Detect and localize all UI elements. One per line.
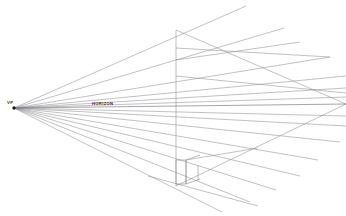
horizon-label: HORIZON: [92, 101, 113, 106]
perspective-box: [176, 155, 200, 184]
perspective-drawing: VP HORIZON: [0, 0, 346, 216]
rays-above-horizon: [14, 6, 346, 108]
perspective-ray: [14, 76, 346, 108]
vanishing-point-label: VP: [7, 100, 13, 105]
perspective-ray: [14, 108, 340, 142]
cross-edge: [176, 42, 300, 60]
cross-edge: [148, 176, 258, 206]
box-receding-edge: [186, 155, 200, 160]
perspective-ray: [14, 28, 284, 108]
cross-edge: [176, 48, 330, 57]
cross-edges: [148, 30, 346, 206]
perspective-ray: [14, 88, 346, 108]
vanishing-point-dot: [12, 106, 15, 109]
perspective-ray: [14, 97, 346, 108]
perspective-ray: [14, 6, 246, 108]
perspective-diagram-canvas: VP HORIZON: [0, 0, 346, 216]
perspective-ray: [14, 57, 330, 108]
horizon-line: [14, 104, 346, 108]
cross-edge: [186, 148, 258, 160]
perspective-ray: [14, 108, 318, 160]
perspective-ray: [14, 108, 222, 212]
perspective-ray: [14, 108, 300, 176]
perspective-ray: [14, 108, 346, 116]
vertical-construction-lines: [176, 30, 198, 186]
cross-edge: [176, 104, 346, 186]
